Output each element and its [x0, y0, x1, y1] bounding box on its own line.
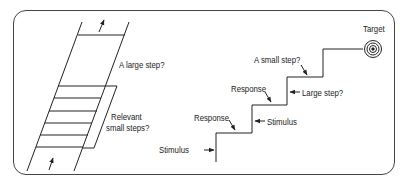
large-step-label-right: Large step? — [302, 87, 343, 98]
ladder — [27, 22, 129, 171]
small-step-arrow-icon — [301, 65, 307, 75]
staircase — [216, 49, 363, 162]
response-lower-label: Response — [194, 112, 229, 123]
response-upper-label: Response — [231, 83, 266, 94]
small-step-label: A small step? — [254, 54, 300, 65]
diagram-graphics — [0, 0, 406, 185]
large-step-label: A large step? — [119, 59, 164, 70]
small-steps-label: small steps? — [106, 122, 149, 133]
ladder-left-rail — [27, 22, 82, 171]
response-lower-arrow-icon — [229, 120, 235, 130]
target-label: Target — [363, 23, 385, 34]
stimulus-upper-label: Stimulus — [267, 116, 297, 127]
target-icon — [365, 41, 382, 58]
stimulus-lower-label: Stimulus — [159, 144, 189, 155]
ladder-right-rail — [74, 22, 129, 171]
relevant-label: Relevant — [111, 111, 142, 122]
up-arrow-icon — [99, 20, 104, 32]
up-arrow-icon — [49, 158, 53, 170]
